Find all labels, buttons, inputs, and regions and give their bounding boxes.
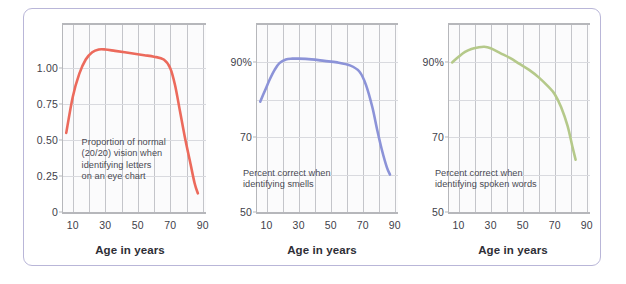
plot-area-vision: 00.250.500.751.00 1030507090 (62, 23, 206, 214)
x-tick-label: 70 (164, 219, 176, 231)
y-tick-mark (253, 62, 257, 63)
x-tick-label: 10 (453, 219, 465, 231)
x-tick-label: 70 (357, 219, 369, 231)
x-tick-label: 50 (517, 219, 529, 231)
y-tick-label: 0.25 (37, 170, 58, 182)
x-tick-label: 30 (485, 219, 497, 231)
annotation-vision: Proportion of normal (20/20) vision when… (82, 137, 166, 183)
x-axis-title-hearing: Age in years (408, 244, 600, 256)
x-axis-title-vision: Age in years (24, 244, 216, 256)
y-tick-mark (59, 176, 63, 177)
x-axis-title-smell: Age in years (216, 244, 408, 256)
figure-panel-container: 00.250.500.751.00 1030507090 Proportion … (23, 8, 601, 266)
y-tick-mark (445, 62, 449, 63)
y-tick-mark (253, 137, 257, 138)
line-curve-vision (63, 25, 206, 212)
y-tick-mark (59, 104, 63, 105)
annotation-hearing: Percent correct when identifying spoken … (435, 168, 537, 191)
x-tick-label: 50 (325, 219, 337, 231)
x-tick-label: 90 (197, 219, 209, 231)
y-tick-label: 1.00 (37, 62, 58, 74)
x-tick-label: 90 (389, 219, 401, 231)
y-tick-label: 0.50 (37, 134, 58, 146)
y-tick-mark (59, 140, 63, 141)
y-tick-label: 70 (240, 131, 252, 143)
y-tick-mark (445, 212, 449, 213)
data-line (260, 59, 390, 175)
chart-panel-hearing: 507090% 1030507090 Percent correct when … (408, 9, 600, 265)
x-tick-label: 90 (581, 219, 593, 231)
y-tick-label: 50 (240, 206, 252, 218)
data-line (452, 47, 575, 160)
y-tick-label: 90% (230, 56, 252, 68)
y-tick-mark (445, 137, 449, 138)
chart-panel-smell: 507090% 1030507090 Percent correct when … (216, 9, 408, 265)
x-tick-label: 70 (549, 219, 561, 231)
x-tick-label: 10 (67, 219, 79, 231)
annotation-smell: Percent correct when identifying smells (243, 168, 331, 191)
y-tick-mark (59, 212, 63, 213)
x-tick-label: 10 (261, 219, 273, 231)
y-tick-label: 70 (432, 131, 444, 143)
y-tick-label: 0.75 (37, 98, 58, 110)
y-tick-label: 90% (422, 56, 444, 68)
y-tick-mark (59, 68, 63, 69)
y-tick-mark (253, 212, 257, 213)
y-tick-label: 50 (432, 206, 444, 218)
x-tick-label: 30 (293, 219, 305, 231)
x-tick-label: 30 (99, 219, 111, 231)
chart-panel-vision: 00.250.500.751.00 1030507090 Proportion … (24, 9, 216, 265)
charts-row: 00.250.500.751.00 1030507090 Proportion … (24, 9, 600, 265)
x-tick-label: 50 (132, 219, 144, 231)
y-tick-label: 0 (52, 206, 58, 218)
